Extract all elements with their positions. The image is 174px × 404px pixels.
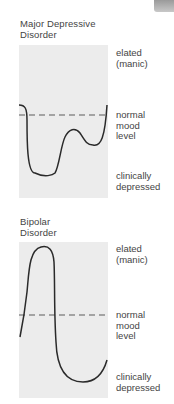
mood-chart-major-depressive: [19, 45, 108, 198]
label-line: depressed: [116, 383, 160, 394]
label-line: clinically: [116, 171, 160, 182]
label-line: elated: [116, 48, 148, 59]
label-elated: elated (manic): [116, 48, 148, 69]
label-line: level: [116, 331, 145, 342]
panel-title-major-depressive: Major Depressive Disorder: [20, 18, 96, 40]
label-clinically-depressed: clinically depressed: [116, 372, 160, 393]
label-line: clinically: [116, 372, 160, 383]
label-line: (manic): [116, 255, 148, 266]
title-line: Major Depressive: [20, 18, 96, 29]
label-line: normal: [116, 310, 145, 321]
mood-chart-bipolar: [19, 242, 108, 398]
label-normal-mood: normal mood level: [116, 310, 145, 342]
title-line: Disorder: [20, 227, 57, 238]
label-normal-mood: normal mood level: [116, 110, 145, 142]
label-line: level: [116, 131, 145, 142]
mood-curve-svg: [19, 45, 108, 198]
label-line: elated: [116, 244, 148, 255]
corner-tab: [154, 0, 174, 12]
label-line: depressed: [116, 182, 160, 193]
title-line: Bipolar: [20, 216, 57, 227]
label-elated: elated (manic): [116, 244, 148, 265]
label-line: normal: [116, 110, 145, 121]
label-line: (manic): [116, 59, 148, 70]
mood-curve-svg: [19, 242, 108, 398]
label-clinically-depressed: clinically depressed: [116, 171, 160, 192]
panel-title-bipolar: Bipolar Disorder: [20, 216, 57, 238]
title-line: Disorder: [20, 29, 96, 40]
